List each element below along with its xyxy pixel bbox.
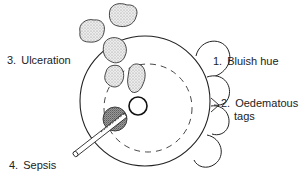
- label-text: Oedematous: [235, 97, 298, 109]
- label-bluish-hue: 1.Bluish hue: [213, 55, 279, 67]
- diagram-drawing: [0, 0, 308, 176]
- label-number: 2.: [221, 97, 230, 109]
- label-text: Ulceration: [21, 54, 71, 66]
- label-text: tags: [234, 110, 255, 122]
- label-text: Bluish hue: [227, 55, 278, 67]
- label-number: 3.: [7, 54, 16, 66]
- lumen-circle: [129, 97, 147, 115]
- label-number: 1.: [213, 55, 222, 67]
- label-number: 4.: [9, 159, 18, 171]
- label-ulceration: 3.Ulceration: [7, 54, 71, 66]
- label-text: Sepsis: [23, 159, 56, 171]
- stoma-complications-diagram: 3.Ulceration 1.Bluish hue 2.Oedematous t…: [0, 0, 308, 176]
- label-oedematous-tags-line2: tags: [234, 110, 255, 122]
- label-oedematous-tags: 2.Oedematous: [221, 97, 298, 109]
- label-sepsis: 4.Sepsis: [9, 159, 56, 171]
